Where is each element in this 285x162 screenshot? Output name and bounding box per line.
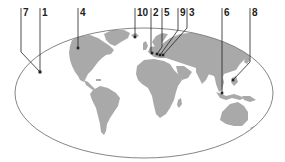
- land-masses: [69, 30, 258, 135]
- central-america: [84, 80, 95, 91]
- africa: [136, 59, 182, 118]
- marker-dot-8: [232, 79, 235, 82]
- marker-label-6: 6: [224, 8, 230, 18]
- great-britain: [143, 41, 148, 50]
- north-america: [69, 35, 114, 82]
- marker-dot-2: [151, 52, 154, 55]
- marker-dot-6: [221, 92, 224, 95]
- greenland: [104, 30, 130, 46]
- caribbean: [96, 79, 101, 81]
- marker-label-2: 2: [153, 8, 159, 18]
- indonesia: [216, 92, 244, 100]
- south-america: [90, 86, 120, 135]
- marker-label-1: 1: [42, 8, 48, 18]
- marker-label-7: 7: [23, 8, 29, 18]
- world-map: [0, 0, 285, 162]
- marker-label-5: 5: [164, 8, 170, 18]
- marker-label-10: 10: [137, 8, 148, 18]
- marker-dot-10: [134, 36, 137, 39]
- marker-label-9: 9: [180, 8, 186, 18]
- leader-line-2: [151, 8, 152, 53]
- marker-dot-4: [77, 47, 80, 50]
- new-guinea: [242, 96, 256, 102]
- indochina: [214, 74, 224, 92]
- marker-label-8: 8: [252, 8, 258, 18]
- marker-dot-5: [156, 53, 159, 56]
- marker-label-3: 3: [189, 8, 195, 18]
- india: [196, 68, 210, 84]
- marker-label-4: 4: [80, 8, 86, 18]
- marker-dot-1: [39, 71, 42, 74]
- australia: [220, 102, 248, 126]
- marker-dot-9: [159, 54, 162, 57]
- madagascar: [177, 98, 182, 108]
- marker-dot-3: [162, 54, 165, 57]
